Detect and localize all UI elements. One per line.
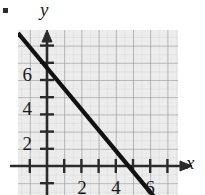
y-tick-label-4: 4 bbox=[14, 99, 32, 118]
bullet-marker-icon bbox=[3, 8, 8, 13]
y-tick-label-6: 6 bbox=[14, 65, 32, 84]
y-axis-label: y bbox=[40, 0, 48, 19]
coordinate-graph-figure: y x 6 4 2 2 4 6 bbox=[0, 0, 205, 195]
x-tick-label-4: 4 bbox=[107, 178, 125, 195]
x-axis-label: x bbox=[186, 153, 194, 172]
y-tick-label-2: 2 bbox=[14, 134, 32, 153]
x-tick-label-2: 2 bbox=[73, 178, 91, 195]
x-tick-label-6: 6 bbox=[141, 178, 159, 195]
